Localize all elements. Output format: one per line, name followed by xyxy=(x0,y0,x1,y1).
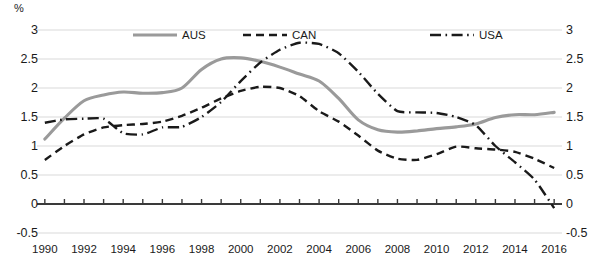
x-tick-label: 2010 xyxy=(424,243,450,255)
y-tick-label-left: 2 xyxy=(31,82,38,94)
y-tick-label-left: 0.5 xyxy=(21,169,38,181)
x-tick-label: 1994 xyxy=(110,243,136,255)
x-tick-label: 1998 xyxy=(189,243,215,255)
series-group xyxy=(45,43,554,208)
x-tick-label: 2014 xyxy=(502,243,528,255)
x-tick-label: 2012 xyxy=(463,243,489,255)
y-tick-label-left: 3 xyxy=(31,24,38,36)
y-tick-label-left: 0 xyxy=(31,198,38,210)
y-tick-label-right: 3 xyxy=(566,24,573,36)
line-chart: % AUSCANUSA -0.500.511.522.53 -0.500.511… xyxy=(0,0,604,267)
plot-area xyxy=(0,0,604,267)
x-tick-label: 1996 xyxy=(150,243,176,255)
y-tick-label-left: -0.5 xyxy=(16,227,38,239)
y-tick-label-left: 1.5 xyxy=(21,111,38,123)
y-tick-label-left: 1 xyxy=(31,140,38,152)
x-tick-label: 2008 xyxy=(385,243,411,255)
y-tick-label-right: 2.5 xyxy=(566,53,583,65)
x-tick-label: 2006 xyxy=(345,243,371,255)
y-tick-label-right: 2 xyxy=(566,82,573,94)
y-tick-label-right: 0.5 xyxy=(566,169,583,181)
x-tick-label: 2002 xyxy=(267,243,293,255)
x-tick-label: 1992 xyxy=(71,243,97,255)
y-tick-label-right: 1.5 xyxy=(566,111,583,123)
x-tick-label: 2004 xyxy=(306,243,332,255)
y-tick-label-right: 1 xyxy=(566,140,573,152)
y-tick-label-left: 2.5 xyxy=(21,53,38,65)
x-tick-label: 1990 xyxy=(32,243,58,255)
x-tick-label: 2016 xyxy=(541,243,567,255)
y-tick-label-right: -0.5 xyxy=(566,227,588,239)
zero-axis xyxy=(37,199,562,204)
x-tick-label: 2000 xyxy=(228,243,254,255)
y-tick-label-right: 0 xyxy=(566,198,573,210)
